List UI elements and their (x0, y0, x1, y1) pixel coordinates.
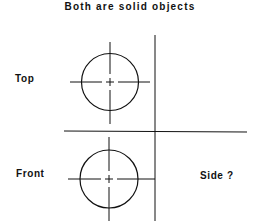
side-view-label: Side ? (200, 170, 234, 181)
top-view-label: Top (15, 73, 34, 84)
front-view-circle (68, 137, 155, 221)
horizontal-divider (64, 131, 247, 132)
front-view-label: Front (16, 168, 45, 179)
top-view-circle (70, 42, 150, 124)
orthographic-projection-diagram (0, 0, 260, 221)
